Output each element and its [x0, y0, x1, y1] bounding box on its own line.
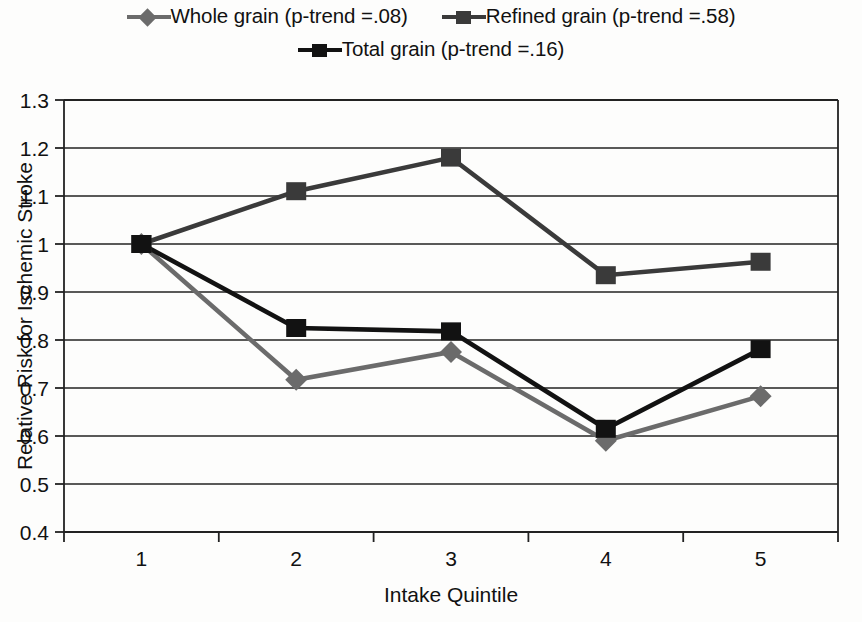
y-axis-title: Relative Risk for Ischemic Stroke	[13, 162, 36, 470]
plot-area-wrapper: 1.31.21.110.90.80.70.60.50.4 12345 Relat…	[0, 0, 862, 622]
x-tick-label: 4	[600, 547, 612, 570]
series-markers-group	[130, 149, 771, 452]
y-tick-label: 0.4	[20, 521, 50, 544]
square-marker-icon	[286, 182, 306, 200]
x-tick-group: 12345	[64, 532, 838, 570]
y-tick-label: 1	[37, 233, 49, 256]
square-marker-icon	[751, 340, 771, 358]
square-marker-icon	[751, 253, 771, 271]
diamond-marker-icon	[440, 341, 462, 363]
x-tick-label: 1	[136, 547, 148, 570]
series-line-refined-grain	[141, 158, 760, 276]
chart-figure: Whole grain (p-trend =.08) Refined grain…	[0, 0, 862, 622]
square-marker-icon	[286, 319, 306, 337]
x-tick-label: 3	[445, 547, 457, 570]
series-lines-group	[141, 158, 760, 441]
y-tick-label: 0.5	[20, 473, 49, 496]
square-marker-icon	[441, 322, 461, 340]
y-tick-label: 1.3	[20, 89, 49, 112]
line-chart-svg: 1.31.21.110.90.80.70.60.50.4 12345 Relat…	[0, 0, 862, 622]
square-marker-icon	[596, 420, 616, 438]
x-tick-label: 5	[755, 547, 767, 570]
square-marker-icon	[596, 266, 616, 284]
x-axis-title: Intake Quintile	[384, 583, 518, 606]
square-marker-icon	[441, 149, 461, 167]
x-tick-label: 2	[290, 547, 302, 570]
y-tick-label: 1.2	[20, 137, 49, 160]
square-marker-icon	[131, 235, 151, 253]
